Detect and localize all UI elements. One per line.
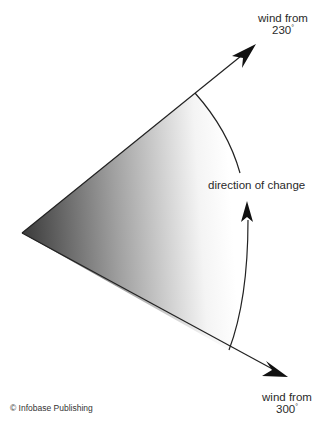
wind-300-text: wind from — [254, 391, 320, 403]
wind-300-arrowhead-icon — [262, 361, 288, 377]
degree-symbol: ° — [295, 403, 298, 410]
wind-shift-diagram — [0, 0, 328, 429]
wind-230-degrees: 230 — [272, 24, 291, 36]
wind-300-degrees: 300 — [276, 403, 295, 415]
wind-from-230-label: wind from 230° — [250, 12, 316, 36]
publisher-credit: © Infobase Publishing — [10, 403, 93, 413]
direction-of-change-label: direction of change — [208, 179, 305, 191]
wind-230-arrowhead-icon — [232, 44, 256, 68]
wind-from-300-label: wind from 300° — [254, 391, 320, 415]
wind-230-text: wind from — [250, 12, 316, 24]
degree-symbol: ° — [291, 24, 294, 31]
